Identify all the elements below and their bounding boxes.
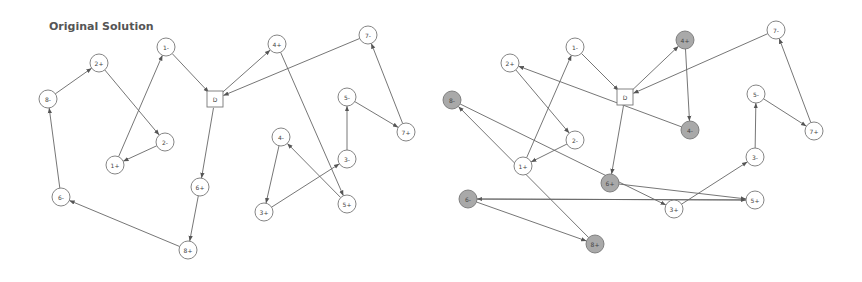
node-7-: 7- <box>767 21 785 39</box>
node-label: 2- <box>162 139 168 146</box>
node-label: 2- <box>572 137 578 144</box>
node-5-: 5- <box>747 85 765 103</box>
node-4+: 4+ <box>676 31 694 49</box>
edge-4+-to-4- <box>685 49 689 121</box>
node-1+: 1+ <box>514 157 532 175</box>
node-5+: 5+ <box>338 195 356 213</box>
node-label: 7+ <box>402 129 411 136</box>
node-7-: 7- <box>359 26 377 44</box>
node-6+: 6+ <box>601 174 619 192</box>
node-label: 8- <box>449 97 455 104</box>
node-3-: 3- <box>746 148 764 166</box>
node-label: 6- <box>465 196 471 203</box>
node-label: D <box>623 94 628 101</box>
node-1-: 1- <box>157 38 175 56</box>
node-3-: 3- <box>338 150 356 168</box>
edge-7+-to-7- <box>371 43 402 123</box>
node-label: 8+ <box>184 247 193 254</box>
nodes-layer: 8-2+1-D4+7-2-1+6+8+6-4-3+3-5+5-7+2+1-D4+… <box>39 21 823 259</box>
node-8+: 8+ <box>586 235 604 253</box>
node-label: 5- <box>344 94 350 101</box>
node-label: 4+ <box>273 41 282 48</box>
node-label: 3- <box>752 154 758 161</box>
edge-6--to-8+ <box>476 202 586 241</box>
node-label: 4- <box>687 127 693 134</box>
node-6+: 6+ <box>191 178 209 196</box>
edge-7--to-D <box>223 38 359 95</box>
edge-1+-to-1- <box>527 55 572 158</box>
node-5-: 5- <box>338 88 356 106</box>
depot-node: D <box>617 89 633 105</box>
node-label: 7- <box>365 32 371 39</box>
edge-5--to-7+ <box>355 102 399 128</box>
node-label: 6- <box>58 194 64 201</box>
node-label: 1- <box>572 44 578 51</box>
edge-2--to-1+ <box>123 146 157 161</box>
node-8+: 8+ <box>179 241 197 259</box>
node-label: 3+ <box>670 206 679 213</box>
node-label: 6+ <box>606 180 615 187</box>
original-solution-nodes: 8-2+1-D4+7-2-1+6+8+6-4-3+3-5+5-7+ <box>39 26 415 259</box>
node-2+: 2+ <box>501 54 519 72</box>
edge-7--to-D <box>633 34 768 94</box>
node-label: 8+ <box>591 241 600 248</box>
node-label: 8- <box>45 96 51 103</box>
node-2+: 2+ <box>90 54 108 72</box>
edge-8--to-2+ <box>55 68 91 94</box>
node-label: 3- <box>344 156 350 163</box>
edge-D-to-4+ <box>222 50 271 93</box>
node-6-: 6- <box>459 190 477 208</box>
node-label: 5+ <box>343 201 352 208</box>
node-label: 2+ <box>95 60 104 67</box>
node-1+: 1+ <box>106 156 124 174</box>
edge-6--to-5+ <box>477 199 746 200</box>
node-8-: 8- <box>443 91 461 109</box>
node-label: 4+ <box>681 37 690 44</box>
edge-4--to-2+ <box>518 66 681 127</box>
node-label: D <box>213 96 218 103</box>
node-4-: 4- <box>681 121 699 139</box>
node-7+: 7+ <box>397 123 415 141</box>
node-8-: 8- <box>39 90 57 108</box>
edge-1--to-D <box>172 54 209 93</box>
node-3+: 3+ <box>665 200 683 218</box>
edge-7+-to-7- <box>779 38 811 122</box>
route-diagrams: 8-2+1-D4+7-2-1+6+8+6-4-3+3-5+5-7+2+1-D4+… <box>0 0 862 282</box>
node-2-: 2- <box>156 133 174 151</box>
node-label: 7+ <box>810 128 819 135</box>
node-label: 1+ <box>519 163 528 170</box>
edge-4--to-3+ <box>266 146 279 203</box>
depot-node: D <box>207 91 223 107</box>
modified-solution-nodes: 2+1-D4+7-8-4-5-7+2-1+6+3-5+3+6-8+ <box>443 21 823 253</box>
node-label: 5+ <box>751 197 760 204</box>
node-4-: 4- <box>272 128 290 146</box>
edge-5--to-7+ <box>764 99 807 126</box>
edge-8--to-3+ <box>460 104 666 205</box>
node-6-: 6- <box>52 188 70 206</box>
edge-2--to-1+ <box>531 144 567 162</box>
node-label: 6+ <box>196 184 205 191</box>
edge-8+-to-6- <box>69 200 179 246</box>
node-label: 1+ <box>111 162 120 169</box>
node-label: 3+ <box>260 209 269 216</box>
edge-D-to-6+ <box>612 106 624 174</box>
edge-6--to-8- <box>49 108 60 188</box>
node-label: 2+ <box>506 60 515 67</box>
edge-1--to-D <box>581 53 618 90</box>
edge-6+-to-8+ <box>190 196 199 241</box>
node-label: 5- <box>753 91 759 98</box>
node-2-: 2- <box>566 131 584 149</box>
node-label: 7- <box>773 27 779 34</box>
node-3+: 3+ <box>255 203 273 221</box>
edge-3--to-5- <box>755 103 756 148</box>
node-1-: 1- <box>566 38 584 56</box>
edge-D-to-6+ <box>202 108 214 178</box>
node-label: 1- <box>163 44 169 51</box>
node-7+: 7+ <box>805 122 823 140</box>
edge-4+-to-5+ <box>281 52 344 196</box>
node-label: 4- <box>278 134 284 141</box>
node-4+: 4+ <box>268 35 286 53</box>
node-5+: 5+ <box>746 191 764 209</box>
